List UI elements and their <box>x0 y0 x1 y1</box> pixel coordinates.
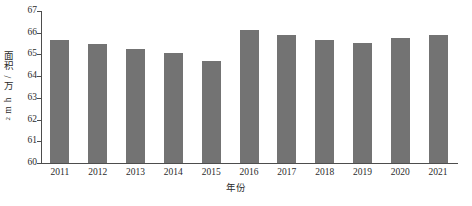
x-tick-label-2018: 2018 <box>306 168 344 178</box>
bar-2021[interactable] <box>429 35 448 163</box>
y-axis-title: 面积/万hm2 <box>2 52 16 122</box>
y-tick-mark <box>37 54 41 55</box>
x-tick-label-2011: 2011 <box>41 168 79 178</box>
y-axis-title-char: / <box>4 70 14 84</box>
x-tick-label-2014: 2014 <box>154 168 192 178</box>
bar-2016[interactable] <box>240 30 259 163</box>
x-tick-label-2016: 2016 <box>230 168 268 178</box>
bar-2020[interactable] <box>391 38 410 163</box>
y-tick-label: 64 <box>28 71 38 81</box>
x-tick-label-2013: 2013 <box>117 168 155 178</box>
y-tick-label: 61 <box>28 137 38 147</box>
y-tick-mark <box>37 11 41 12</box>
y-tick-label: 62 <box>28 115 38 125</box>
y-tick-mark <box>37 141 41 142</box>
y-tick-label: 63 <box>28 93 38 103</box>
bar-2018[interactable] <box>315 40 334 163</box>
x-axis-line <box>41 163 458 164</box>
y-tick-mark <box>37 163 41 164</box>
bar-chart: 面积/万hm2 6061626364656667 年份 201120122013… <box>0 0 472 206</box>
y-tick-mark <box>37 120 41 121</box>
bar-2019[interactable] <box>353 43 372 163</box>
x-tick-label-2020: 2020 <box>381 168 419 178</box>
x-tick-label-2021: 2021 <box>419 168 457 178</box>
bar-2013[interactable] <box>126 49 145 163</box>
x-tick-label-2015: 2015 <box>192 168 230 178</box>
x-tick-label-2019: 2019 <box>344 168 382 178</box>
y-tick-label: 66 <box>28 28 38 38</box>
y-tick-label: 67 <box>28 6 38 16</box>
y-tick-mark <box>37 98 41 99</box>
y-tick-label: 60 <box>28 158 38 168</box>
y-tick-mark <box>37 76 41 77</box>
y-axis-title-superscript: 2 <box>5 111 12 125</box>
x-tick-label-2017: 2017 <box>268 168 306 178</box>
y-tick-mark <box>37 33 41 34</box>
bar-2012[interactable] <box>88 44 107 163</box>
bar-2017[interactable] <box>277 35 296 163</box>
x-axis-title: 年份 <box>0 184 472 194</box>
bar-2015[interactable] <box>202 61 221 163</box>
x-tick-label-2012: 2012 <box>79 168 117 178</box>
y-tick-label: 65 <box>28 50 38 60</box>
plot-area: 6061626364656667 <box>41 11 457 163</box>
bar-2011[interactable] <box>50 40 69 163</box>
bar-2014[interactable] <box>164 53 183 163</box>
